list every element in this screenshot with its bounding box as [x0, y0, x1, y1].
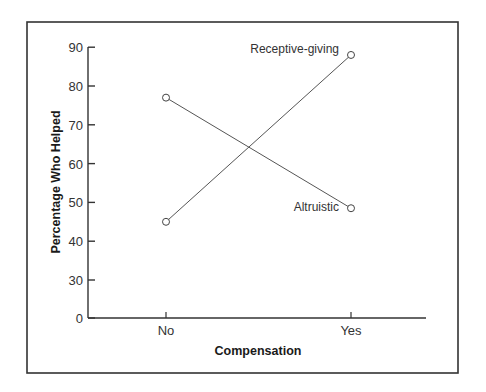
y-tick-label: 80 — [69, 79, 83, 94]
series-label: Receptive-giving — [250, 42, 339, 56]
series-line — [166, 55, 351, 222]
series-label: Altruistic — [294, 200, 339, 214]
series-altruistic: Altruistic — [163, 94, 355, 214]
x-axis-title: Compensation — [215, 344, 302, 358]
y-tick-label: 90 — [69, 40, 83, 55]
y-tick-label: 70 — [69, 118, 83, 133]
data-point-marker — [163, 218, 170, 225]
data-point-marker — [163, 94, 170, 101]
y-tick-label: 60 — [69, 157, 83, 172]
chart-canvas: 030405060708090 NoYes Compensation Perce… — [0, 0, 486, 392]
y-axis: 030405060708090 — [69, 40, 95, 326]
series-group: AltruisticReceptive-giving — [163, 42, 355, 225]
data-point-marker — [348, 205, 355, 212]
chart-frame — [27, 22, 458, 373]
series-line — [166, 98, 351, 209]
y-tick-label: 0 — [76, 311, 83, 326]
x-tick-label: No — [158, 323, 175, 338]
series-receptive-giving: Receptive-giving — [163, 42, 355, 225]
y-tick-label: 40 — [69, 234, 83, 249]
x-axis: NoYes — [88, 312, 426, 338]
y-tick-label: 50 — [69, 195, 83, 210]
data-point-marker — [348, 51, 355, 58]
y-axis-title: Percentage Who Helped — [49, 110, 63, 253]
x-tick-label: Yes — [340, 323, 362, 338]
y-tick-label: 30 — [69, 273, 83, 288]
